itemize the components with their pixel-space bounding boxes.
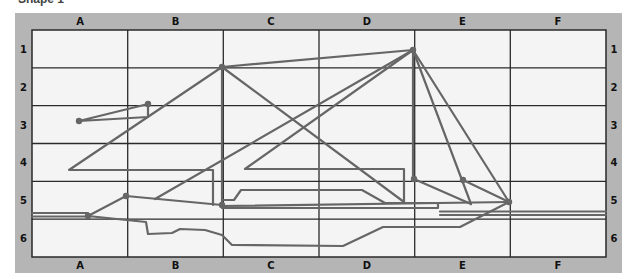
vertex-point bbox=[410, 47, 416, 53]
col-label-d: D bbox=[363, 260, 371, 271]
row-label-5: 5 bbox=[20, 195, 27, 206]
row-label-1: 1 bbox=[611, 44, 618, 55]
col-label-c: C bbox=[267, 16, 274, 27]
row-label-4: 4 bbox=[611, 157, 618, 168]
col-label-a: A bbox=[76, 260, 84, 271]
vertex-point bbox=[145, 101, 151, 107]
vertex-point bbox=[460, 177, 466, 183]
vertex-point bbox=[219, 64, 225, 70]
row-label-6: 6 bbox=[20, 233, 27, 244]
vertex-point bbox=[506, 199, 512, 205]
col-label-b: B bbox=[172, 260, 180, 271]
col-label-e: E bbox=[459, 260, 466, 271]
row-label-1: 1 bbox=[20, 44, 27, 55]
vertex-point bbox=[76, 118, 82, 124]
vertex-point bbox=[123, 193, 129, 199]
grid-diagram: A B C D E F A B C D E F 1 2 3 4 5 6 1 2 … bbox=[0, 0, 629, 279]
row-label-2: 2 bbox=[20, 82, 27, 93]
col-label-e: E bbox=[459, 16, 466, 27]
vertex-point bbox=[219, 202, 225, 208]
col-label-f: F bbox=[555, 260, 562, 271]
col-label-d: D bbox=[363, 16, 371, 27]
row-label-3: 3 bbox=[611, 120, 618, 131]
col-label-f: F bbox=[555, 16, 562, 27]
row-label-3: 3 bbox=[20, 120, 27, 131]
row-label-6: 6 bbox=[611, 233, 618, 244]
col-label-a: A bbox=[76, 16, 84, 27]
col-label-c: C bbox=[267, 260, 274, 271]
row-label-4: 4 bbox=[20, 157, 27, 168]
col-label-b: B bbox=[172, 16, 180, 27]
row-label-2: 2 bbox=[611, 82, 618, 93]
row-label-5: 5 bbox=[611, 195, 618, 206]
vertex-point bbox=[411, 176, 417, 182]
vertex-point bbox=[85, 213, 91, 219]
